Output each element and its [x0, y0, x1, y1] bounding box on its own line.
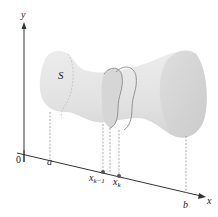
b-label: b: [183, 200, 188, 210]
origin-label: 0: [16, 155, 21, 165]
x-axis: [17, 153, 201, 196]
solid-diagram: [0, 0, 218, 217]
solid-right-end: [160, 50, 207, 137]
solid-label: S: [58, 70, 64, 81]
xk-label: xk: [113, 177, 121, 189]
x-axis-arrow: [198, 193, 206, 199]
a-label: a: [47, 157, 52, 167]
x-axis-label: x: [207, 196, 211, 206]
xk-minus-1-label: xk−1: [89, 173, 105, 185]
xk-sub: k: [117, 181, 120, 189]
y-axis-arrow: [22, 22, 27, 29]
y-axis-label: y: [21, 10, 25, 20]
xk-minus-1-sub: k−1: [93, 177, 104, 185]
